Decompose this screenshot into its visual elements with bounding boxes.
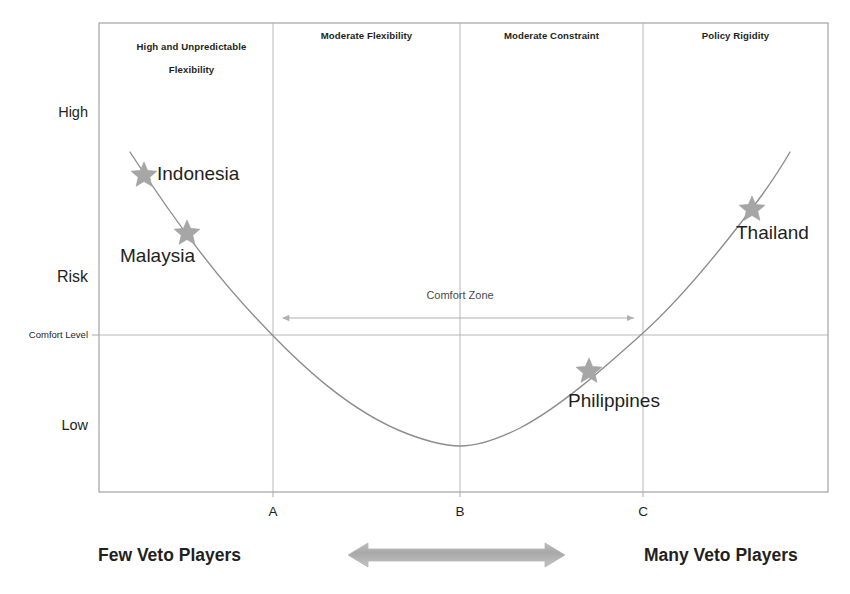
risk-veto-players-chart: High and Unpredictable Flexibility Moder… <box>0 0 850 594</box>
marker-indonesia <box>131 162 157 186</box>
marker-thailand <box>739 196 765 220</box>
y-axis-title-risk: Risk <box>0 268 88 287</box>
zone-header-line2: Flexibility <box>169 64 214 75</box>
x-label-a: A <box>253 504 293 520</box>
y-label-comfort-level: Comfort Level <box>0 329 88 340</box>
axis-title-many-veto-players: Many Veto Players <box>644 545 798 566</box>
country-label-thailand: Thailand <box>736 222 809 244</box>
zone-header-line1: High and Unpredictable <box>137 41 247 52</box>
country-label-malaysia: Malaysia <box>120 245 195 267</box>
axis-title-few-veto-players: Few Veto Players <box>98 545 241 566</box>
country-label-indonesia: Indonesia <box>157 163 239 185</box>
comfort-zone-annotation: Comfort Zone <box>380 289 540 302</box>
marker-malaysia <box>174 220 200 244</box>
country-label-philippines: Philippines <box>568 390 660 412</box>
y-label-high: High <box>0 104 88 121</box>
x-label-b: B <box>440 504 480 520</box>
veto-players-direction-arrow <box>348 543 565 567</box>
y-label-low: Low <box>0 417 88 434</box>
plot-border <box>99 23 828 492</box>
zone-header-moderate-constraint: Moderate Constraint <box>460 30 643 41</box>
zone-header-high-unpredictable-flexibility: High and Unpredictable Flexibility <box>99 30 273 87</box>
marker-philippines <box>576 358 602 382</box>
x-label-c: C <box>623 504 663 520</box>
zone-header-moderate-flexibility: Moderate Flexibility <box>273 30 460 41</box>
zone-header-policy-rigidity: Policy Rigidity <box>643 30 828 41</box>
